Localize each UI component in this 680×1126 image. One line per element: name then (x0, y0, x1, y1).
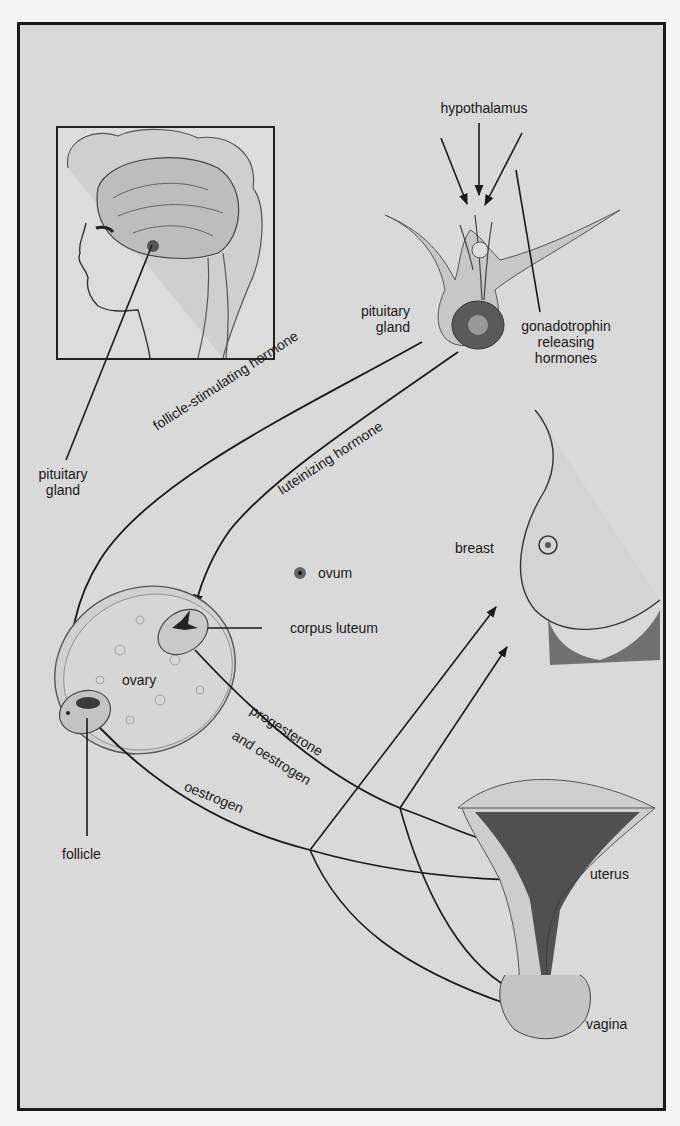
ovary-label: ovary (122, 672, 156, 688)
gonadotrophin-line1: gonadotrophin (506, 318, 626, 334)
hypothalamus-arrows (441, 123, 522, 205)
ovum-label: ovum (318, 565, 352, 581)
breast-label: breast (455, 540, 494, 556)
hypothalamus-label: hypothalamus (439, 100, 529, 116)
breast-illustration (521, 410, 660, 665)
follicle-label: follicle (62, 846, 101, 862)
pituitary-gland-label-right-line1: pituitary (350, 303, 410, 319)
pituitary-gland-label-left-line2: gland (28, 482, 98, 498)
pituitary-pointer-line (66, 245, 152, 460)
ovum-illustration (294, 567, 306, 579)
pituitary-gland-label-left: pituitary gland (28, 466, 98, 498)
gonadotrophin-line3: hormones (506, 350, 626, 366)
gonadotrophin-pointer-line (516, 170, 540, 312)
pituitary-gland-label-right-line2: gland (350, 319, 410, 335)
corpus-luteum-label: corpus luteum (290, 620, 378, 636)
pituitary-gland-label-right: pituitary gland (350, 303, 410, 335)
uterus-label: uterus (590, 866, 629, 882)
pituitary-gland-label-left-line1: pituitary (28, 466, 98, 482)
ovary-illustration (27, 557, 263, 783)
hormone-pathways (0, 0, 680, 1126)
vagina-label: vagina (586, 1016, 627, 1032)
gonadotrophin-label: gonadotrophin releasing hormones (506, 318, 626, 366)
uterus-illustration (458, 780, 655, 1039)
gonadotrophin-line2: releasing (506, 334, 626, 350)
